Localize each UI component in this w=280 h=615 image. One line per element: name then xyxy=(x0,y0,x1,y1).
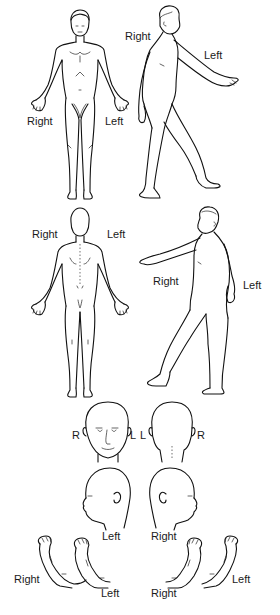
head-right-profile-label: Right xyxy=(151,531,177,542)
feet-left-pair-right-label: Right xyxy=(14,574,40,585)
head-back-left-label: L xyxy=(140,430,146,441)
head-left-profile-label: Left xyxy=(102,531,120,542)
lateral1-right-label: Right xyxy=(125,31,151,42)
anterior-body-figure xyxy=(32,10,129,199)
feet-right-pair-right-label: Right xyxy=(151,588,177,599)
feet-left-pair-left-label: Left xyxy=(101,588,119,599)
body-outlines xyxy=(0,0,280,615)
posterior-right-label: Right xyxy=(32,229,58,240)
feet-right-pair-left-label: Left xyxy=(232,574,250,585)
head-front-left-label: L xyxy=(130,430,136,441)
lateral2-left-label: Left xyxy=(243,280,261,291)
anterior-right-label: Right xyxy=(27,116,53,127)
head-right-profile-figure xyxy=(150,468,197,530)
head-back-right-label: R xyxy=(197,430,205,441)
feet-soles-left-figure xyxy=(38,536,110,588)
head-front-figure xyxy=(83,402,131,462)
head-left-profile-figure xyxy=(83,468,130,530)
anterior-left-label: Left xyxy=(105,116,123,127)
lateral2-right-label: Right xyxy=(153,276,179,287)
right-lateral-body-figure xyxy=(139,6,239,198)
head-front-right-label: R xyxy=(72,430,80,441)
posterior-left-label: Left xyxy=(107,229,125,240)
feet-soles-right-figure xyxy=(166,536,238,588)
body-chart-diagram: Right Left Right Left Right Left Right L… xyxy=(0,0,280,615)
lateral1-left-label: Left xyxy=(204,50,222,61)
head-back-figure xyxy=(149,402,195,462)
left-lateral-body-figure xyxy=(140,207,235,394)
